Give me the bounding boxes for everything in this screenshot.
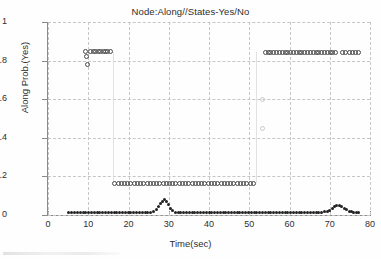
plot-area xyxy=(48,22,370,215)
data-point-marker xyxy=(167,203,170,206)
x-tick-label: 50 xyxy=(234,219,264,229)
data-point-marker xyxy=(157,205,160,208)
y-tick-mark xyxy=(42,99,47,100)
x-tick-label: 80 xyxy=(355,219,381,229)
y-tick-label: 1 xyxy=(0,16,7,26)
x-tick-label: 70 xyxy=(315,219,345,229)
x-tick-label: 10 xyxy=(73,219,103,229)
y-tick-label: 0.2 xyxy=(0,170,7,180)
y-tick-mark xyxy=(42,22,47,23)
x-tick-label: 30 xyxy=(154,219,184,229)
x-tick-label: 40 xyxy=(194,219,224,229)
y-tick-label: 0 xyxy=(0,209,7,219)
figure-container: Node:Along//States-Yes/No Along Prob.(Ye… xyxy=(0,0,381,259)
y-axis-label: Along Prob.(Yes) xyxy=(19,8,30,148)
data-point-marker xyxy=(155,208,158,211)
y-tick-mark xyxy=(42,215,47,216)
y-tick-label: 0.6 xyxy=(0,93,7,103)
data-point-marker xyxy=(357,211,360,214)
gridline-horizontal xyxy=(48,215,370,216)
page-title: Node:Along//States-Yes/No xyxy=(0,6,381,17)
x-axis-label: Time(sec) xyxy=(0,238,381,249)
x-tick-label: 60 xyxy=(275,219,305,229)
y-tick-mark xyxy=(42,176,47,177)
data-series xyxy=(48,22,370,215)
x-tick-label: 0 xyxy=(33,219,63,229)
y-tick-mark xyxy=(42,138,47,139)
gridline-vertical xyxy=(370,22,371,215)
scan-artifact xyxy=(3,252,121,255)
y-tick-label: 0.4 xyxy=(0,132,7,142)
y-tick-mark xyxy=(42,61,47,62)
x-tick-label: 20 xyxy=(114,219,144,229)
y-tick-label: 0.8 xyxy=(0,55,7,65)
